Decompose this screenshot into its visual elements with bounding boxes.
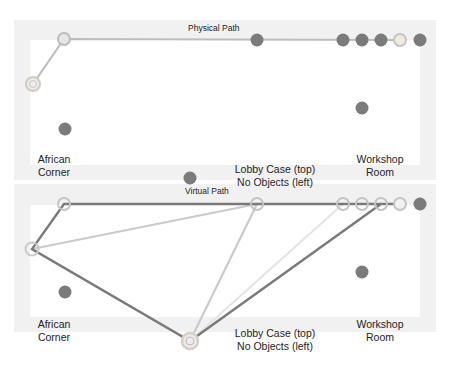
- node-ring: [26, 77, 40, 91]
- label-african-corner: African Corner: [24, 153, 84, 179]
- node-filled: [251, 34, 264, 47]
- node-filled: [414, 198, 427, 211]
- node-filled: [337, 34, 350, 47]
- physical-path-title: Physical Path: [188, 23, 240, 33]
- node-filled: [356, 102, 369, 115]
- node-filled: [356, 34, 369, 47]
- virtual-path-title: Virtual Path: [185, 186, 229, 196]
- node-ring: [394, 34, 406, 46]
- node-filled: [356, 266, 369, 279]
- label-workshop-room: Workshop Room: [344, 318, 416, 344]
- label-african-corner: African Corner: [24, 318, 84, 344]
- node-filled: [184, 172, 197, 185]
- node-ring-start: [182, 333, 198, 349]
- node-filled: [59, 123, 72, 136]
- node-ring: [58, 33, 70, 45]
- label-lobby-case: Lobby Case (top) No Objects (left): [215, 163, 335, 189]
- node-ring: [394, 198, 406, 210]
- node-filled: [59, 286, 72, 299]
- label-workshop-room: Workshop Room: [344, 153, 416, 179]
- node-filled: [375, 34, 388, 47]
- label-lobby-case: Lobby Case (top) No Objects (left): [215, 327, 335, 353]
- node-filled: [414, 34, 427, 47]
